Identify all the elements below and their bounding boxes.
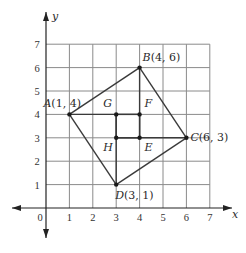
y-tick-label: 1: [34, 180, 39, 191]
origin-label: 0: [37, 212, 42, 223]
x-axis-arrow-icon: [223, 205, 232, 211]
coordinate-plane: yx012345671234567 A(1, 4)B(4, 6)C(6, 3)D…: [0, 0, 246, 253]
x-tick-label: 1: [67, 212, 72, 223]
x-tick-label: 7: [207, 212, 212, 223]
x-tick-label: 4: [137, 212, 143, 223]
y-tick-label: 3: [34, 133, 39, 144]
point-label-a: A(1, 4): [42, 97, 81, 110]
point-label-c: C(6, 3): [190, 131, 228, 144]
x-tick-label: 3: [114, 212, 119, 223]
point-label-h: H: [102, 141, 113, 154]
x-tick-label: 5: [160, 212, 165, 223]
y-tick-label: 6: [34, 63, 39, 74]
grid-lines: [46, 44, 210, 208]
x-tick-label: 2: [90, 212, 95, 223]
point-label-f: F: [144, 97, 153, 110]
y-axis-arrow-icon: [43, 12, 49, 21]
point-f: [137, 112, 141, 116]
point-e: [137, 136, 141, 140]
point-label-e: E: [144, 141, 153, 154]
figure-segments: [69, 68, 186, 185]
point-h: [114, 136, 118, 140]
point-label-d: D(3, 1): [114, 189, 153, 202]
figure-points: [67, 65, 188, 186]
y-tick-label: 4: [34, 109, 40, 120]
point-g: [114, 112, 118, 116]
point-d: [114, 182, 118, 186]
x-tick-label: 6: [184, 212, 189, 223]
y-axis-label: y: [51, 10, 59, 23]
point-c: [184, 136, 188, 140]
point-label-g: G: [103, 97, 112, 110]
point-labels: A(1, 4)B(4, 6)C(6, 3)D(3, 1)GFHE: [42, 51, 228, 202]
y-tick-label: 2: [34, 156, 39, 167]
point-a: [67, 112, 71, 116]
y-tick-label: 5: [34, 86, 39, 97]
point-label-b: B(4, 6): [142, 51, 181, 64]
point-b: [137, 65, 141, 69]
x-axis-left-arrow-icon: [12, 205, 21, 211]
x-axis-label: x: [232, 208, 239, 221]
y-axis-down-arrow-icon: [43, 229, 49, 238]
y-tick-label: 7: [34, 39, 39, 50]
